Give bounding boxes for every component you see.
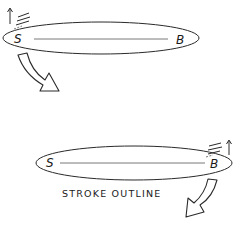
bottom-rotation-arrow-icon	[186, 179, 217, 217]
top-start-label: S	[14, 32, 22, 46]
top-motion-marker-icon	[8, 8, 31, 29]
diagram-caption: STROKE OUTLINE	[62, 188, 161, 199]
top-rotation-arrow-icon	[18, 53, 59, 91]
bottom-start-label: S	[46, 156, 54, 170]
top-end-label: B	[176, 33, 184, 47]
stroke-outline-diagram: S B S B	[0, 0, 236, 233]
top-stroke-panel: S B	[3, 8, 199, 91]
bottom-stroke-panel: S B STROKE OUTLINE	[36, 140, 232, 217]
bottom-end-label: B	[210, 157, 218, 171]
top-stroke-ellipse	[3, 22, 199, 54]
